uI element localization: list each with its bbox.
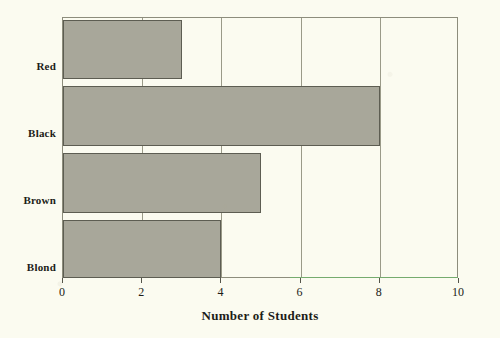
x-tick-label-8: 8 (364, 285, 394, 299)
y-axis-category-labels: Red Black Brown Blond (0, 17, 56, 278)
x-tick-8 (379, 278, 380, 283)
x-tick-10 (458, 278, 459, 283)
gridline-x-8 (380, 18, 381, 277)
x-tick-label-4: 4 (205, 285, 235, 299)
x-tick-label-0: 0 (47, 285, 77, 299)
x-tick-0 (62, 278, 63, 283)
x-tick-label-6: 6 (285, 285, 315, 299)
y-axis-label-brown: Brown (0, 195, 56, 206)
x-tick-4 (220, 278, 221, 283)
x-tick-2 (141, 278, 142, 283)
gridline-x-4 (221, 18, 222, 277)
bar-brown (63, 153, 261, 213)
plot-area (62, 17, 458, 278)
y-axis-label-red: Red (0, 61, 56, 72)
x-axis-baseline-tint (290, 277, 458, 278)
bar-red (63, 20, 182, 79)
x-tick-label-2: 2 (126, 285, 156, 299)
y-axis-label-black: Black (0, 128, 56, 139)
bar-blond (63, 220, 221, 278)
x-tick-6 (300, 278, 301, 283)
bar-chart: Red Black Brown Blond 0 2 4 6 8 10 Numbe… (0, 0, 500, 338)
bar-black (63, 86, 380, 146)
x-tick-label-10: 10 (443, 285, 473, 299)
y-axis-label-blond: Blond (0, 262, 56, 273)
gridline-x-6 (301, 18, 302, 277)
x-axis-title: Number of Students (62, 308, 458, 324)
